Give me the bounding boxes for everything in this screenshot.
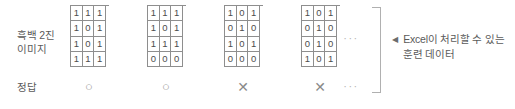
binary-grid-cell: 0 bbox=[248, 21, 260, 36]
binary-grid-cell: 0 bbox=[314, 6, 326, 21]
binary-grid-row: 111 bbox=[148, 37, 186, 52]
binary-grid-cell: 1 bbox=[83, 6, 95, 21]
binary-grid-cell: 0 bbox=[325, 37, 337, 52]
grouping-bracket bbox=[372, 7, 381, 93]
annotation-callout: ◀ Excel이 처리할 수 있는 훈련 데이터 bbox=[392, 32, 510, 62]
binary-grid-cell: 1 bbox=[148, 37, 160, 52]
binary-grid-cell: 1 bbox=[325, 52, 337, 67]
binary-grid: 111101101111 bbox=[70, 5, 109, 67]
binary-grid-cell: 1 bbox=[71, 37, 83, 52]
binary-grid-row: 101 bbox=[148, 21, 186, 36]
binary-grid-cell: 0 bbox=[237, 6, 249, 21]
binary-grid-row: 101 bbox=[225, 6, 263, 21]
binary-grid-cell: 0 bbox=[237, 52, 249, 67]
binary-grid-cell: 1 bbox=[248, 6, 260, 21]
binary-grid-cell: 1 bbox=[171, 6, 183, 21]
answers-ellipsis: ··· bbox=[340, 80, 362, 92]
binary-grid-cell: 0 bbox=[160, 52, 172, 67]
binary-grid-row: 010 bbox=[302, 37, 340, 52]
binary-grid-cell: 1 bbox=[325, 6, 337, 21]
binary-grid-cell: 0 bbox=[160, 21, 172, 36]
binary-grid-cell: 1 bbox=[302, 6, 314, 21]
binary-grid-row: 010 bbox=[302, 21, 340, 36]
binary-grid-cell: 1 bbox=[171, 37, 183, 52]
answer-mark: ○ bbox=[70, 78, 108, 96]
answer-mark: ○ bbox=[147, 78, 185, 96]
binary-grid-cell: 1 bbox=[314, 37, 326, 52]
binary-grid-row: 111 bbox=[71, 52, 109, 67]
binary-grid-row: 101 bbox=[302, 52, 340, 67]
binary-grid-cell: 1 bbox=[71, 6, 83, 21]
binary-grid-cell: 1 bbox=[302, 52, 314, 67]
grids-ellipsis: ··· bbox=[340, 32, 362, 44]
binary-grid-cell: 1 bbox=[94, 37, 106, 52]
binary-grid-cell: 1 bbox=[71, 21, 83, 36]
binary-grid: 101010101000 bbox=[224, 5, 263, 67]
binary-grid-cell: 1 bbox=[94, 21, 106, 36]
binary-grid-cell: 0 bbox=[302, 21, 314, 36]
binary-grid-row: 101 bbox=[302, 6, 340, 21]
answer-mark: ✕ bbox=[301, 78, 339, 96]
binary-grid: 111101111000 bbox=[147, 5, 186, 67]
binary-grid-cell: 1 bbox=[160, 6, 172, 21]
left-arrow-icon: ◀ bbox=[392, 32, 398, 48]
binary-grid-cell: 0 bbox=[248, 52, 260, 67]
binary-grid-cell: 0 bbox=[83, 21, 95, 36]
binary-grid-cell: 1 bbox=[237, 21, 249, 36]
binary-grid-cell: 0 bbox=[171, 52, 183, 67]
binary-grid-cell: 0 bbox=[83, 37, 95, 52]
binary-grid-cell: 1 bbox=[171, 21, 183, 36]
binary-grid-row: 111 bbox=[71, 6, 109, 21]
binary-grid-cell: 1 bbox=[71, 52, 83, 67]
binary-grid-cell: 1 bbox=[225, 37, 237, 52]
binary-grid-cell: 0 bbox=[225, 52, 237, 67]
binary-grid-row: 000 bbox=[225, 52, 263, 67]
binary-image-training-data-figure: 흑백 2진 이미지 정답 111101101111111101111000101… bbox=[0, 0, 515, 109]
binary-grid: 101010010101 bbox=[301, 5, 340, 67]
binary-grid-row: 000 bbox=[148, 52, 186, 67]
binary-grid-row: 111 bbox=[148, 6, 186, 21]
binary-grid-row: 010 bbox=[225, 21, 263, 36]
binary-grid-cell: 0 bbox=[302, 37, 314, 52]
answer-mark: ✕ bbox=[224, 78, 262, 96]
binary-grid-cell: 0 bbox=[225, 21, 237, 36]
binary-grid-cell: 0 bbox=[314, 52, 326, 67]
binary-grid-cell: 1 bbox=[148, 21, 160, 36]
binary-grid-row: 101 bbox=[71, 37, 109, 52]
binary-grid-row: 101 bbox=[225, 37, 263, 52]
binary-grid-cell: 0 bbox=[237, 37, 249, 52]
binary-grid-cell: 1 bbox=[314, 21, 326, 36]
binary-grid-cell: 0 bbox=[148, 52, 160, 67]
binary-grid-cell: 1 bbox=[94, 6, 106, 21]
binary-grid-cell: 1 bbox=[83, 52, 95, 67]
binary-grid-cell: 0 bbox=[325, 21, 337, 36]
binary-grid-cell: 1 bbox=[160, 37, 172, 52]
annotation-label: Excel이 처리할 수 있는 훈련 데이터 bbox=[403, 32, 510, 62]
row-label-answer: 정답 bbox=[17, 80, 69, 94]
binary-grid-cell: 1 bbox=[94, 52, 106, 67]
binary-grid-cell: 1 bbox=[148, 6, 160, 21]
binary-grid-cell: 1 bbox=[225, 6, 237, 21]
row-label-binary-image: 흑백 2진 이미지 bbox=[17, 28, 69, 56]
binary-grid-row: 101 bbox=[71, 21, 109, 36]
binary-grid-cell: 1 bbox=[248, 37, 260, 52]
